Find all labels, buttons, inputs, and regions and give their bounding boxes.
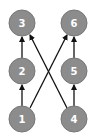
node-label: 1 bbox=[19, 114, 26, 125]
node-2[interactable]: 2 bbox=[9, 58, 35, 84]
node-label: 2 bbox=[19, 66, 26, 77]
node-5[interactable]: 5 bbox=[61, 58, 87, 84]
node-label: 5 bbox=[71, 66, 78, 77]
node-label: 3 bbox=[19, 18, 26, 29]
node-label: 6 bbox=[71, 18, 78, 29]
node-1[interactable]: 1 bbox=[9, 106, 35, 132]
node-3[interactable]: 3 bbox=[9, 10, 35, 36]
node-6[interactable]: 6 bbox=[61, 10, 87, 36]
graph-canvas: 3 6 2 5 1 4 bbox=[0, 0, 96, 139]
node-label: 4 bbox=[71, 114, 78, 125]
node-4[interactable]: 4 bbox=[61, 106, 87, 132]
